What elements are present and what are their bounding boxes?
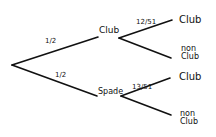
branch-club-to-nonclub: [119, 38, 171, 58]
branch-root-to-spade: [12, 65, 97, 96]
leaf-line-club: Club: [181, 53, 199, 61]
prob-spade-club: 13/51: [132, 84, 152, 91]
leaf-spade-club: Club: [179, 72, 201, 81]
leaf-club-nonclub: non Club: [181, 45, 199, 61]
prob-root-club: 1/2: [45, 38, 56, 45]
leaf-line-club: Club: [180, 118, 198, 126]
prob-root-spade: 1/2: [55, 72, 66, 79]
node-club: Club: [99, 26, 119, 35]
node-spade: Spade: [98, 87, 123, 96]
leaf-club-club: Club: [179, 15, 201, 24]
prob-club-club: 12/51: [136, 19, 156, 26]
leaf-spade-nonclub: non Club: [180, 110, 198, 126]
branch-spade-to-nonclub: [121, 96, 171, 115]
